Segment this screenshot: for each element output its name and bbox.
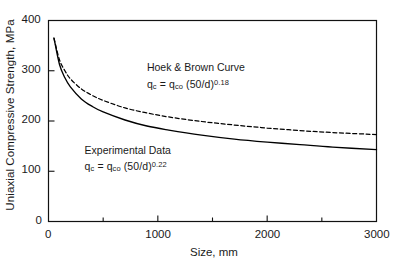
x-tick-label-3000: 3000 [364,228,390,240]
exp-eq-tail: (50/d) [121,160,152,172]
y-tick-label-200: 200 [22,113,41,125]
x-tick-label-0: 0 [45,228,51,240]
exp-eq-exponent: 0.22 [152,160,167,169]
y-tick-label-400: 400 [22,13,41,25]
hoek-eq-mid: = q [157,78,175,90]
hoek-eq-tail: (50/d) [183,78,214,90]
x-tick-label-1000: 1000 [145,228,171,240]
exp-eq-sub-co: co [113,165,121,174]
y-axis-title-text: Uniaxial Compressive Strength, MPa [4,19,16,210]
y-tick-label-100: 100 [22,163,41,175]
plot-frame [49,21,377,222]
annotation-experimental-data-title: Experimental Data [85,142,171,158]
annotation-hoek-brown: Hoek & Brown Curve qc = qco (50/d)0.18 [147,59,245,92]
hoek-eq-exponent: 0.18 [214,77,229,86]
y-tick-label-0: 0 [36,214,42,226]
y-axis-ticks [49,71,55,172]
annotation-experimental-data: Experimental Data qc = qco (50/d)0.22 [85,142,171,175]
hoek-eq-sub-co: co [175,82,183,91]
x-axis-ticks [103,216,322,222]
annotation-hoek-brown-formula: qc = qco (50/d)0.18 [147,76,245,93]
y-axis-title: Uniaxial Compressive Strength, MPa [0,0,20,230]
annotation-hoek-brown-title: Hoek & Brown Curve [147,59,245,75]
x-tick-label-2000: 2000 [255,228,281,240]
x-axis-title: Size, mm [190,246,238,258]
annotation-experimental-data-formula: qc = qco (50/d)0.22 [85,158,171,175]
chart-figure: Uniaxial Compressive Strength, MPa Size,… [0,0,395,272]
y-tick-label-300: 300 [22,63,41,75]
exp-eq-mid: = q [94,160,112,172]
plot-area [0,0,395,272]
